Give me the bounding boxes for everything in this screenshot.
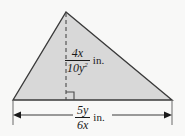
base-numerator: 5y (75, 104, 90, 117)
triangle-dimension-diagram: 4x 10y2 in. 5y 6x in. (0, 0, 185, 136)
height-denominator-base: 10y (67, 61, 84, 75)
base-dimension-label: 5y 6x in. (73, 104, 107, 131)
height-dimension-label: 4x 10y2 in. (65, 47, 104, 74)
height-numerator: 4x (70, 47, 85, 60)
height-fraction: 4x 10y2 (65, 47, 90, 74)
base-denominator: 6x (75, 118, 90, 131)
height-denominator: 10y2 (65, 61, 90, 74)
height-unit-label: in. (93, 55, 104, 66)
base-unit-label: in. (93, 112, 104, 123)
height-denominator-exponent: 2 (84, 61, 88, 69)
dimension-arrow-left-icon (13, 112, 21, 119)
base-fraction: 5y 6x (75, 104, 90, 131)
dimension-arrow-right-icon (164, 112, 172, 119)
